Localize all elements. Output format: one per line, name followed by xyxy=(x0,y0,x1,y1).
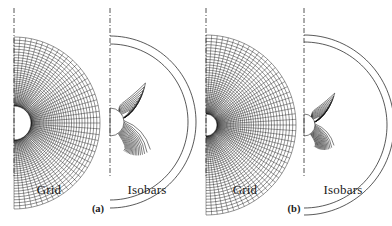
subcaption-b: (b) xyxy=(196,201,392,217)
panel-isobars-a xyxy=(98,2,196,180)
panel-isobars-b xyxy=(294,2,392,180)
subcaption-row: (a) (b) xyxy=(0,201,392,223)
label-grid-b: Grid xyxy=(196,180,294,200)
isobars-b-lobes xyxy=(310,93,335,123)
grid-a-plot xyxy=(0,2,98,180)
panel-row xyxy=(0,0,392,180)
panel-grid-a xyxy=(0,2,98,180)
figure-root: Grid Isobars Grid Isobars (a) (b) xyxy=(0,0,392,226)
grid-b-plot xyxy=(196,2,294,180)
label-grid-a: Grid xyxy=(0,180,98,200)
isobars-a-plot xyxy=(98,2,196,180)
isobars-b-plot xyxy=(294,2,392,180)
label-isobars-a: Isobars xyxy=(98,180,196,200)
label-isobars-b: Isobars xyxy=(294,180,392,200)
subcaption-a: (a) xyxy=(0,201,196,217)
panel-label-row: Grid Isobars Grid Isobars xyxy=(0,180,392,202)
panel-grid-b xyxy=(196,2,294,180)
